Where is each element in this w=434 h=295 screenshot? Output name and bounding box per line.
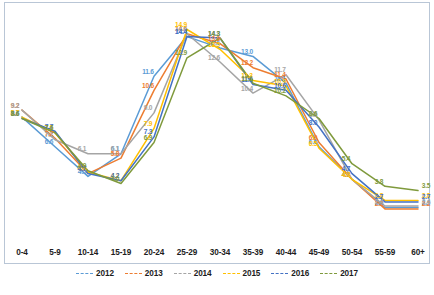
data-label: 4.9 (78, 163, 87, 170)
data-label: 13.0 (241, 49, 253, 56)
x-tick-5-9: 5-9 (49, 248, 61, 257)
data-label: 8.6 (11, 111, 20, 118)
x-tick-55-59: 55-59 (375, 248, 395, 257)
data-label: 12.9 (175, 50, 187, 57)
data-label: 6.6 (45, 139, 54, 146)
x-tick-60+: 60+ (411, 248, 425, 257)
data-label: 6.1 (111, 146, 120, 153)
data-label: 12.6 (208, 54, 220, 61)
legend-label: 2015 (243, 269, 261, 278)
x-tick-35-39: 35-39 (243, 248, 263, 257)
legend-label: 2013 (145, 269, 163, 278)
x-tick-45-49: 45-49 (309, 248, 329, 257)
data-label: 11.7 (274, 67, 286, 74)
legend-item-2014[interactable]: 2014 (174, 269, 212, 278)
data-label: 8.0 (309, 119, 318, 126)
legend-swatch-icon (174, 273, 191, 274)
x-tick-50-54: 50-54 (342, 248, 362, 257)
x-tick-30-34: 30-34 (210, 248, 230, 257)
legend-label: 2012 (96, 269, 114, 278)
x-tick-40-44: 40-44 (276, 248, 296, 257)
data-label: 8.6 (309, 111, 318, 118)
legend-swatch-icon (125, 273, 142, 274)
data-label: 5.4 (342, 156, 351, 163)
data-label: 4.0 (111, 176, 120, 183)
data-label: 14.4 (175, 29, 187, 36)
legend-swatch-icon (76, 273, 93, 274)
legend-item-2013[interactable]: 2013 (125, 269, 163, 278)
legend-label: 2014 (194, 269, 212, 278)
data-label: 10.4 (241, 85, 253, 92)
x-axis-tick-labels: 0-45-910-1415-1920-2425-2930-3435-3940-4… (0, 246, 434, 264)
data-label: 7.6 (45, 125, 54, 132)
data-label: 7.9 (144, 121, 153, 128)
data-label: 6.5 (309, 140, 318, 147)
legend-label: 2016 (291, 269, 309, 278)
data-label: 11.1 (241, 75, 253, 82)
legend-item-2015[interactable]: 2015 (223, 269, 261, 278)
data-label: 10.6 (142, 83, 154, 90)
x-tick-25-29: 25-29 (177, 248, 197, 257)
data-label: 13.5 (208, 42, 220, 49)
data-label: 3.5 (422, 183, 431, 190)
data-label: 14.3 (208, 30, 220, 37)
data-label: 3.8 (375, 179, 384, 186)
x-tick-20-24: 20-24 (144, 248, 164, 257)
legend-item-2016[interactable]: 2016 (271, 269, 309, 278)
legend-swatch-icon (223, 273, 240, 274)
data-label: 10.2 (274, 88, 286, 95)
data-label: 4.7 (342, 166, 351, 173)
x-tick-0-4: 0-4 (16, 248, 28, 257)
chart-legend: 201220132014201520162017 (0, 266, 434, 280)
legend-item-2012[interactable]: 2012 (76, 269, 114, 278)
legend-label: 2017 (340, 269, 358, 278)
plot-area: 8.76.64.56.111.614.413.613.011.16.64.32.… (0, 0, 434, 248)
legend-swatch-icon (320, 273, 337, 274)
data-label: 6.1 (78, 146, 87, 153)
x-tick-15-19: 15-19 (111, 248, 131, 257)
legend-item-2017[interactable]: 2017 (320, 269, 358, 278)
data-label: 11.6 (142, 68, 154, 75)
data-label: 12.2 (241, 60, 253, 67)
data-label: 2.7 (375, 194, 384, 201)
legend-swatch-icon (271, 273, 288, 274)
data-label: 2.7 (422, 194, 431, 201)
data-label: 6.9 (144, 135, 153, 142)
data-label: 7.1 (45, 132, 54, 139)
x-tick-10-14: 10-14 (78, 248, 98, 257)
line-chart: 8.76.64.56.111.614.413.613.011.16.64.32.… (0, 0, 434, 295)
data-label: 4.3 (342, 172, 351, 179)
data-label: 9.0 (144, 105, 153, 112)
